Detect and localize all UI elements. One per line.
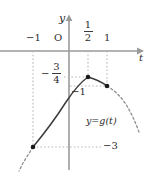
ytick-label-minus1: −1 — [71, 87, 86, 97]
curve-dashed-group — [19, 86, 139, 171]
xtick-label-minus1: −1 — [26, 33, 41, 43]
ytick-label-minus3: −3 — [103, 141, 118, 151]
three-quarters-denominator: 4 — [50, 74, 62, 85]
point-vertex-half-minus34 — [86, 75, 91, 80]
ytick-label-minus-three-quarters: − 3 4 — [41, 62, 62, 85]
y-axis-label: y — [59, 13, 65, 24]
graph-figure: y t O −1 1 1 2 − 3 4 −1 −3 y=g(t) — [0, 0, 153, 177]
curve-left-dashed-tail — [19, 147, 33, 171]
point-1-minus1 — [105, 84, 110, 89]
xtick-label-one-half: 1 2 — [82, 20, 94, 43]
three-quarters-fraction: 3 4 — [50, 62, 62, 85]
one-half-denominator: 2 — [82, 32, 94, 43]
xtick-label-1: 1 — [104, 33, 110, 43]
one-half-numerator: 1 — [82, 20, 94, 31]
three-quarters-numerator: 3 — [50, 62, 62, 73]
minus-sign-three-quarters: − — [41, 68, 49, 79]
curve-equation-label: y=g(t) — [86, 116, 117, 126]
t-axis-label: t — [139, 53, 143, 63]
origin-label: O — [54, 33, 62, 43]
y-axis-arrowhead — [66, 15, 73, 22]
curve-solid-arc — [33, 77, 107, 147]
point-minus1-minus3 — [31, 145, 36, 150]
